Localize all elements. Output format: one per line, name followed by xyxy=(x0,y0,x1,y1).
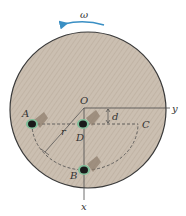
y-axis-label: y xyxy=(171,103,178,114)
disk-diagram: ω y x O d r A D B xyxy=(0,0,186,216)
point-c-label: C xyxy=(142,119,150,130)
point-d-label: D xyxy=(75,132,84,143)
origin-label: O xyxy=(80,95,88,106)
omega-label: ω xyxy=(80,9,88,20)
point-b-label: B xyxy=(69,170,77,181)
point-a-label: A xyxy=(21,108,29,119)
omega-arrow-icon xyxy=(64,22,104,25)
angular-velocity-indicator: ω xyxy=(64,9,104,25)
distance-d-dimension: d xyxy=(106,109,118,123)
x-axis-label: x xyxy=(81,201,87,212)
distance-d-label: d xyxy=(112,111,118,122)
